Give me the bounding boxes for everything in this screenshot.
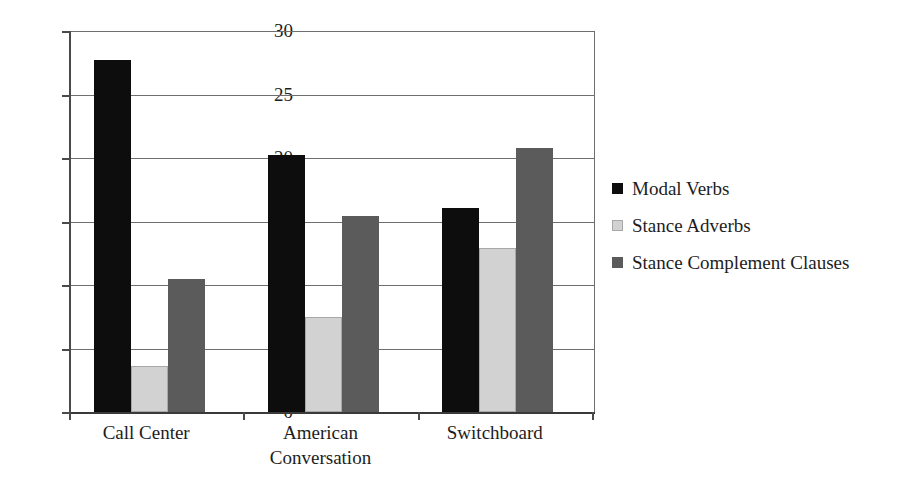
x-tick-mark	[69, 412, 71, 420]
legend-label: Modal Verbs	[632, 179, 729, 198]
bar-1-1	[305, 317, 342, 412]
x-tick-mark	[418, 412, 420, 420]
legend-swatch-icon	[612, 220, 623, 231]
bar-chart-figure: 051015202530 Call CenterAmerican Convers…	[0, 0, 899, 482]
x-category-label: Switchboard	[408, 420, 582, 445]
plot-area	[69, 31, 595, 412]
bar-2-0	[442, 208, 479, 412]
legend-swatch-icon	[612, 257, 623, 268]
chart-legend: Modal VerbsStance AdverbsStance Compleme…	[612, 170, 849, 281]
gridline	[71, 31, 594, 32]
bar-0-1	[131, 366, 168, 412]
legend-label: Stance Complement Clauses	[632, 253, 849, 272]
x-tick-mark	[592, 412, 594, 420]
bar-0-0	[94, 60, 131, 412]
x-axis-baseline	[71, 412, 595, 414]
bar-1-0	[268, 155, 305, 412]
x-category-label: Call Center	[59, 420, 233, 445]
legend-item-2: Stance Complement Clauses	[612, 244, 849, 281]
bar-0-2	[168, 279, 205, 412]
bar-2-1	[479, 248, 516, 412]
x-tick-mark	[243, 412, 245, 420]
bar-1-2	[342, 216, 379, 412]
x-category-label: American Conversation	[233, 420, 407, 470]
legend-swatch-icon	[612, 183, 623, 194]
bar-2-2	[516, 148, 553, 412]
legend-item-1: Stance Adverbs	[612, 207, 849, 244]
legend-label: Stance Adverbs	[632, 216, 751, 235]
legend-item-0: Modal Verbs	[612, 170, 849, 207]
gridline	[71, 95, 594, 96]
